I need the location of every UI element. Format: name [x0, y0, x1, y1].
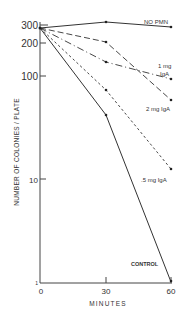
x-tick-label-30: 30	[102, 287, 111, 296]
label-1mg-line1: 1 mg	[158, 63, 171, 69]
label-2mg: 2 mg IgA	[146, 106, 170, 112]
point-2mg-30	[105, 41, 108, 44]
point-2mg-60	[170, 99, 173, 102]
x-tick-label-60: 60	[167, 287, 176, 296]
y-tick-label-1: 1	[35, 280, 38, 286]
point-half-mg-30	[105, 89, 108, 92]
point-control-30	[105, 114, 108, 117]
point-no-pmn-60	[170, 26, 173, 29]
series-control	[40, 28, 171, 282]
x-tick-label-0: 0	[39, 287, 44, 296]
label-control: CONTROL	[131, 261, 159, 267]
point-no-pmn-30	[105, 21, 108, 24]
y-tick-label-10: 10	[29, 176, 38, 185]
point-half-mg-60	[170, 168, 173, 171]
y-axis-title: NUMBER OF COLONIES / PLATE	[13, 98, 20, 206]
point-1mg-60	[170, 78, 173, 81]
y-tick-label-200: 200	[21, 38, 38, 49]
y-tick-label-300: 300	[21, 20, 38, 31]
point-control-60	[170, 280, 173, 283]
label-1mg-line2: IgA	[160, 71, 169, 77]
label-half-mg: .5 mg IgA	[141, 177, 167, 183]
label-no-pmn: NO PMN	[144, 19, 168, 25]
x-axis-title: MINUTES	[89, 300, 127, 307]
series-half-mg-iga	[40, 28, 171, 169]
y-tick-label-100: 100	[21, 71, 38, 82]
point-origin	[39, 27, 42, 30]
chart: 300 200 100 10 1 0 30 60 MINUTES NUMBER …	[0, 0, 185, 322]
point-1mg-30	[105, 61, 108, 64]
